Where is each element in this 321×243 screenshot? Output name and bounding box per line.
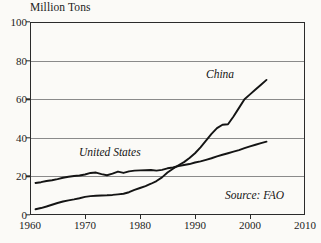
series-label-united-states: United States [79, 146, 141, 158]
x-tick-label: 1990 [184, 219, 206, 231]
y-tick-label: 80 [1, 55, 27, 67]
series-lines [30, 22, 305, 215]
series-label-china: China [206, 68, 234, 80]
chart-container: Million Tons 020406080100 19601970198019… [0, 0, 321, 243]
source-note: Source: FAO [225, 189, 284, 201]
x-tick-mark [195, 215, 196, 219]
x-tick-mark [85, 215, 86, 219]
x-tick-label: 1980 [129, 219, 151, 231]
x-tick-label: 1970 [74, 219, 96, 231]
x-tick-mark [250, 215, 251, 219]
x-tick-label: 2000 [239, 219, 261, 231]
y-tick-label: 100 [1, 16, 27, 28]
x-tick-label: 2010 [294, 219, 316, 231]
plot-area [30, 22, 305, 215]
y-tick-label: 40 [1, 132, 27, 144]
y-tick-label: 60 [1, 93, 27, 105]
series-line-united-states [36, 142, 267, 183]
y-axis-title: Million Tons [30, 1, 91, 13]
x-tick-label: 1960 [19, 219, 41, 231]
x-tick-mark [140, 215, 141, 219]
y-tick-label: 20 [1, 170, 27, 182]
